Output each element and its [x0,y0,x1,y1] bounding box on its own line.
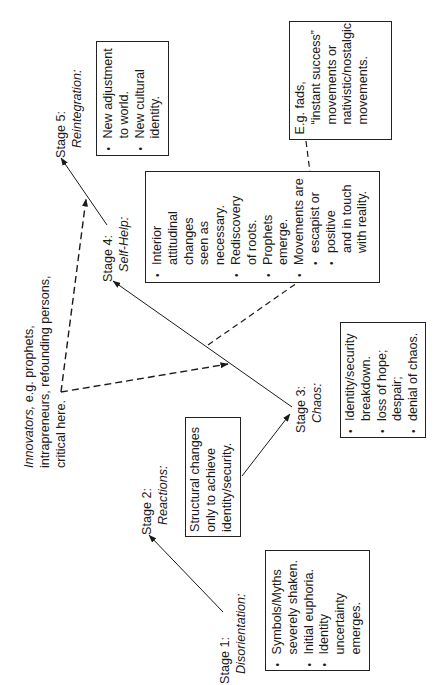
stage2-label: Stage 2: Reactions: [140,475,174,535]
stage4-sub-bullet-escapist: escapist or [307,177,323,265]
stage4-name: Self-Help: [117,222,133,282]
innovators-line-1: Innovators, e.g. prophets, [22,318,38,468]
stage4-sub-bullet-positive: positiveand in touchwith reality. [323,177,370,265]
fads-line-4: nativistic/nostalgic [339,25,355,134]
stage3-box: Identity/securitybreakdown. loss of hope… [340,322,426,438]
stage5-bullet-1: New adjustmentto world. [100,47,132,150]
stage1-box: Symbols/Mythsseverely shaken. Initial eu… [265,550,370,671]
stage5-label: Stage 5: Reintegration: [54,92,86,158]
arrow-stage3-to-stage4 [113,281,292,407]
fads-line-5: movements. [355,25,371,134]
stage4-label: Stage 4: Self-Help: [101,222,135,282]
stage3-name: Chaos: [310,381,326,433]
innovators-line-3: critical here. [54,318,70,468]
stage1-name: Disorientation: [234,598,250,684]
stage3-bullet-3: denial of chaos. [406,327,422,433]
fads-line-2: “instant success” [308,25,324,134]
stage2-line-2: only to achieve [204,422,220,532]
stage4-bullet-2: Rediscoveryof roots. [228,177,260,277]
stage4-bullet-4: Movements are [291,177,307,277]
stage2-box: Structural changes only to achieve ident… [185,417,241,537]
stage1-bullet-3: Identityuncertaintyemerges. [316,555,363,666]
stage3-number: Stage 3: [294,381,310,433]
stage5-number: Stage 5: [54,92,70,158]
stage5-name: Reintegration: [70,92,86,158]
stage1-bullet-1: Symbols/Mythsseverely shaken. [269,555,301,666]
stage4-number: Stage 4: [101,222,117,282]
stage3-label: Stage 3: Chaos: [294,381,328,433]
stage4-bullet-3: Prophetsemerge. [260,177,292,277]
fads-line-3: movements or [324,25,340,134]
escapist-movements-box: E.g. fads, “instant success” movements o… [289,21,392,140]
stage1-label: Stage 1: Disorientation: [218,598,252,684]
stage2-line-1: Structural changes [188,422,204,532]
stage4-box: Interiorattitudinalchangesseen asnecessa… [145,171,380,283]
stage1-number: Stage 1: [218,598,234,684]
stage3-bullet-2: loss of hope;despair; [375,327,407,433]
fads-line-1: E.g. fads, [292,25,308,134]
stage5-bullet-2: New culturalidentity. [132,47,164,150]
stage5-box: New adjustmentto world. New culturaliden… [96,41,169,156]
arrow-stage1-to-stage2 [149,535,223,612]
arrow-stage2-to-stage3 [242,414,290,476]
stage2-name: Reactions: [156,475,172,535]
stage1-bullet-2: Initial euphoria. [301,555,317,666]
innovators-line-2: intrapreneurs, refounding persons, [38,318,54,468]
innovators-note: Innovators, e.g. prophets, intrapreneurs… [22,318,72,468]
stages-of-cultural-change-diagram: Stage 5: Reintegration: New adjustmentto… [0,0,444,685]
dashed-arrow-innovators-to-stage3-4 [61,364,228,392]
stage2-line-3: identity/security. [220,422,236,532]
stage3-bullet-1: Identity/securitybreakdown. [343,327,375,433]
stage4-bullet-1: Interiorattitudinalchangesseen asnecessa… [149,177,228,277]
stage2-number: Stage 2: [140,475,156,535]
